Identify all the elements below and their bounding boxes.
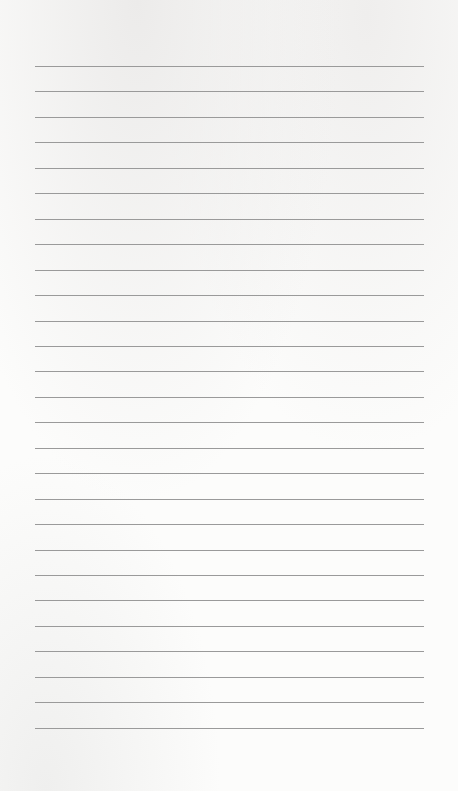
ruled-line xyxy=(35,219,424,220)
ruled-line xyxy=(35,321,424,322)
ruled-line xyxy=(35,473,424,474)
ruled-line xyxy=(35,550,424,551)
ruled-line xyxy=(35,499,424,500)
ruled-line xyxy=(35,168,424,169)
ruled-line xyxy=(35,651,424,652)
ruled-line xyxy=(35,524,424,525)
ruled-line xyxy=(35,244,424,245)
lined-paper-sheet xyxy=(0,0,458,791)
ruled-line xyxy=(35,575,424,576)
ruled-line xyxy=(35,142,424,143)
ruled-line xyxy=(35,295,424,296)
ruled-line xyxy=(35,346,424,347)
ruled-line xyxy=(35,626,424,627)
ruled-line xyxy=(35,66,424,67)
ruled-line xyxy=(35,448,424,449)
ruled-line xyxy=(35,270,424,271)
ruled-line xyxy=(35,117,424,118)
ruled-line xyxy=(35,728,424,729)
ruled-line xyxy=(35,193,424,194)
ruled-line xyxy=(35,677,424,678)
ruled-line xyxy=(35,422,424,423)
ruled-line xyxy=(35,702,424,703)
ruled-line xyxy=(35,600,424,601)
ruled-line xyxy=(35,371,424,372)
ruled-line xyxy=(35,397,424,398)
ruled-line xyxy=(35,91,424,92)
